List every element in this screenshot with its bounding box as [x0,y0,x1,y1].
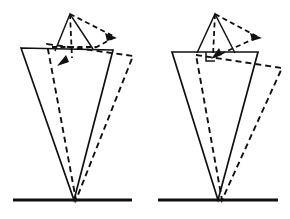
diagram-background [0,0,290,219]
geometry-diagram-svg [0,0,290,219]
figure-container [0,0,290,219]
